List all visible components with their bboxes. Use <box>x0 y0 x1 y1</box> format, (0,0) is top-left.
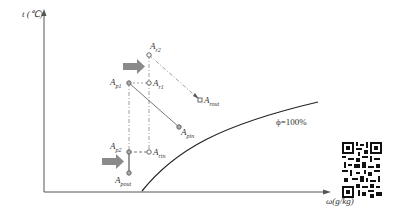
label-ap1: Ap1 <box>110 78 122 89</box>
point-arout <box>198 98 202 102</box>
saturation-curve <box>142 102 318 191</box>
label-ap2: Ap2 <box>110 142 122 153</box>
point-ap1 <box>127 81 131 85</box>
qr-code <box>342 142 382 198</box>
curve-label: ϕ=100% <box>276 118 307 127</box>
airflow-arrow-top-icon <box>123 59 145 74</box>
airflow-arrow-bottom-icon <box>102 154 124 169</box>
point-apout <box>127 171 131 175</box>
x-axis-arrow-icon <box>323 190 331 195</box>
point-ap2 <box>127 150 131 154</box>
point-ar1 <box>147 81 151 85</box>
label-apout: Apout <box>115 176 131 187</box>
label-ar2: Ar2 <box>150 42 161 53</box>
y-axis-label: t (℃) <box>22 10 43 19</box>
label-ar1: Ar1 <box>153 79 164 90</box>
point-ar2 <box>147 53 151 57</box>
label-arin: Arin <box>153 148 166 159</box>
label-apin: Apin <box>181 128 194 139</box>
point-arin <box>147 150 151 154</box>
x-axis-label: ω(g/kg) <box>326 197 354 206</box>
label-arout: Arout <box>204 96 219 107</box>
